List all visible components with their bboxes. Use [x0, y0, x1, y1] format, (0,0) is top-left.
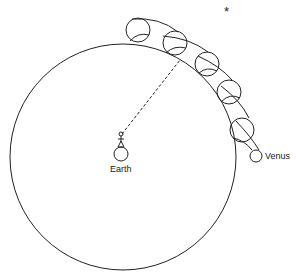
venus-circle: [250, 150, 262, 162]
star-icon: *: [224, 4, 229, 19]
venus-path: [132, 19, 259, 150]
earth-label: Earth: [110, 164, 132, 174]
observer-icon: [118, 132, 124, 147]
venus-epicycle-diagram: * Earth Venus: [0, 0, 299, 279]
deferent-circle: [10, 44, 236, 270]
epicycle-1: [126, 18, 150, 42]
epicycle-2: [163, 31, 187, 55]
sight-line: [122, 60, 180, 134]
venus-label: Venus: [265, 151, 291, 161]
epicycle-3: [195, 52, 219, 76]
earth-circle: [114, 147, 128, 161]
